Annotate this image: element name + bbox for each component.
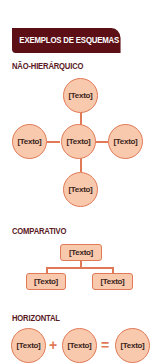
node-compare-right: [Texto] — [92, 273, 133, 290]
equals-icon: = — [101, 338, 109, 352]
connector-line — [95, 141, 108, 143]
node-horizontal-3: [Texto] — [115, 328, 150, 363]
section-title-comparative: COMPARATIVO — [12, 226, 66, 236]
node-right: [Texto] — [108, 124, 143, 159]
section-title-horizontal: HORIZONTAL — [12, 313, 60, 323]
plus-icon: + — [49, 338, 57, 352]
header-banner: EXEMPLOS DE ESQUEMAS — [12, 28, 121, 53]
node-left: [Texto] — [12, 124, 47, 159]
section-title-non-hierarchical: NÃO-HIERÁRQUICO — [12, 61, 83, 71]
node-center: [Texto] — [61, 124, 96, 159]
connector-line — [80, 158, 82, 172]
node-horizontal-1: [Texto] — [11, 328, 46, 363]
node-bottom: [Texto] — [63, 172, 98, 207]
node-horizontal-2: [Texto] — [62, 328, 97, 363]
node-top: [Texto] — [63, 78, 98, 113]
node-compare-left: [Texto] — [26, 273, 66, 290]
connector-line — [46, 267, 114, 269]
node-compare-top: [Texto] — [60, 244, 102, 261]
connector-line — [47, 141, 60, 143]
